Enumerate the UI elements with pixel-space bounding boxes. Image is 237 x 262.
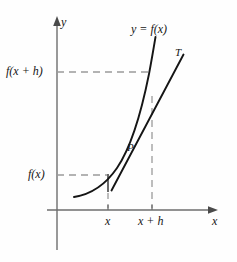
y-axis-arrowhead <box>53 16 61 26</box>
figure-canvas <box>0 0 237 262</box>
y-value-f-x-label: f(x) <box>28 168 45 180</box>
point-p-label: P <box>127 142 134 153</box>
x-tick-label-x-plus-h: x + h <box>138 215 163 227</box>
difference-quotient-figure: y y = f(x) T P f(x + h) f(x) x x + h x <box>0 0 237 262</box>
curve-label: y = f(x) <box>131 23 167 35</box>
x-axis-arrowhead <box>208 206 218 214</box>
y-axis-label: y <box>61 16 66 28</box>
tangent-label: T <box>175 47 181 58</box>
y-value-f-x-plus-h-label: f(x + h) <box>6 65 43 77</box>
x-tick-label-x: x <box>105 215 110 227</box>
function-curve <box>74 37 156 197</box>
x-axis-label: x <box>212 215 217 227</box>
tangent-line <box>112 55 184 191</box>
